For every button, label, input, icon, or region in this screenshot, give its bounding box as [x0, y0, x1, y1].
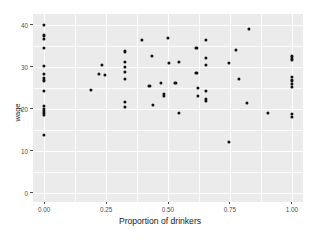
- x-axis-tick-label: 1.00: [286, 206, 298, 213]
- data-point: [205, 56, 208, 59]
- x-axis-tick-mark: [291, 202, 292, 204]
- gridline-major-vertical: [106, 14, 107, 202]
- data-point: [237, 77, 240, 80]
- y-axis-tick-label: 0: [2, 189, 28, 196]
- gridline-major-vertical: [292, 14, 293, 202]
- data-point: [123, 60, 126, 63]
- data-point: [90, 88, 93, 91]
- y-axis-tick-label: 20: [2, 105, 28, 112]
- y-axis-tick-label: 30: [2, 63, 28, 70]
- x-axis-label: Proportion of drinkers: [0, 216, 320, 226]
- data-point: [159, 81, 162, 84]
- data-point: [123, 65, 126, 68]
- y-axis-tick-mark: [30, 24, 32, 25]
- data-point: [178, 60, 181, 63]
- x-axis-tick-mark: [106, 202, 107, 204]
- data-point: [174, 81, 177, 84]
- y-axis-tick-mark: [30, 66, 32, 67]
- y-axis-tick-label: 10: [2, 147, 28, 154]
- data-point: [247, 27, 250, 30]
- data-point: [195, 46, 198, 49]
- plot-panel: [33, 14, 303, 202]
- data-point: [246, 101, 249, 104]
- data-point: [123, 70, 126, 73]
- data-point: [123, 100, 126, 103]
- data-point: [150, 55, 153, 58]
- x-axis-tick-label: 0.25: [100, 206, 112, 213]
- data-point: [205, 89, 208, 92]
- data-point: [267, 112, 270, 115]
- data-point: [205, 38, 208, 41]
- y-axis-label: wage: [13, 83, 22, 143]
- gridline-major-vertical: [168, 14, 169, 202]
- data-point: [97, 73, 100, 76]
- data-point: [152, 103, 155, 106]
- x-axis-tick-mark: [168, 202, 169, 204]
- x-axis-tick-label: 0.00: [38, 206, 50, 213]
- data-point: [235, 48, 238, 51]
- x-axis-tick-label: 0.50: [162, 206, 174, 213]
- data-point: [205, 100, 208, 103]
- data-point: [123, 50, 126, 53]
- data-point: [195, 72, 198, 75]
- x-axis-tick-label: 0.75: [224, 206, 236, 213]
- data-point: [168, 61, 171, 64]
- scatter-plot-figure: wage Proportion of drinkers 0102030400.0…: [0, 0, 320, 240]
- y-axis-tick-label: 40: [2, 21, 28, 28]
- data-point: [163, 94, 166, 97]
- gridline-major-vertical: [230, 14, 231, 202]
- data-point: [123, 78, 126, 81]
- y-axis-tick-mark: [30, 192, 32, 193]
- data-point: [178, 112, 181, 115]
- y-axis-tick-mark: [30, 108, 32, 109]
- x-axis-tick-mark: [229, 202, 230, 204]
- data-point: [140, 39, 143, 42]
- y-axis-tick-mark: [30, 150, 32, 151]
- x-axis-tick-mark: [44, 202, 45, 204]
